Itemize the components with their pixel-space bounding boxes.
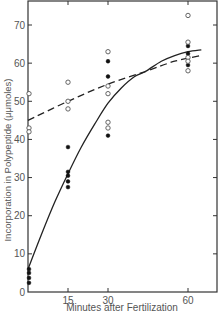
open-circle-point: [27, 130, 31, 134]
plot-area: 010203040506070153060 Minutes after Fert…: [0, 0, 221, 316]
y-tick-label: 50: [14, 96, 26, 107]
filled-circle-point: [27, 281, 31, 285]
y-tick-label: 60: [14, 58, 26, 69]
filled-circle-point: [106, 75, 110, 79]
y-tick-label: 0: [19, 287, 25, 298]
solid-fit-curve: [28, 50, 201, 269]
open-circle-point: [186, 13, 190, 17]
dashed-fit-curve: [28, 56, 201, 121]
open-circle-point: [106, 120, 110, 124]
y-tick-label: 20: [14, 210, 26, 221]
filled-circle-point: [66, 145, 70, 149]
x-tick-label: 60: [182, 295, 194, 306]
x-axis-label: Minutes after Fertilization: [66, 302, 178, 313]
open-circle-point: [66, 107, 70, 111]
open-circle-point: [186, 69, 190, 73]
data-points: [27, 13, 190, 284]
open-circle-point: [106, 50, 110, 54]
filled-circle-point: [66, 170, 70, 174]
filled-circle-point: [27, 267, 31, 271]
filled-circle-point: [66, 185, 70, 189]
open-circle-point: [66, 99, 70, 103]
open-circle-point: [106, 91, 110, 95]
y-tick-label: 30: [14, 172, 26, 183]
open-circle-point: [186, 40, 190, 44]
filled-circle-point: [66, 179, 70, 183]
open-circle-point: [106, 84, 110, 88]
open-circle-point: [27, 91, 31, 95]
filled-circle-point: [106, 134, 110, 138]
chart: 010203040506070153060 Minutes after Fert…: [0, 0, 221, 316]
open-circle-point: [66, 80, 70, 84]
open-circle-point: [186, 59, 190, 63]
filled-circle-point: [106, 59, 110, 63]
y-axis-label: Incorporation in Polypeptide (μμmoles): [2, 78, 13, 241]
y-tick-label: 10: [14, 248, 26, 259]
y-tick-label: 70: [14, 20, 26, 31]
filled-circle-point: [27, 276, 31, 280]
open-circle-point: [106, 126, 110, 130]
fit-curves: [28, 50, 201, 269]
filled-circle-point: [66, 174, 70, 178]
y-tick-label: 40: [14, 134, 26, 145]
filled-circle-point: [27, 271, 31, 275]
